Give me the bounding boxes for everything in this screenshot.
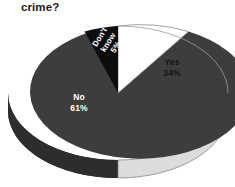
slice-label-yes-value: 34% [163,68,180,78]
pie-chart-figure: crime? Yes34% No61% Don'tknow5% [0,0,235,187]
slice-label-yes: Yes34% [151,57,193,78]
slice-label-no-name: No [73,92,85,102]
slice-label-no-value: 61% [70,103,87,113]
slice-label-no: No61% [58,92,100,113]
slice-label-yes-name: Yes [165,57,180,67]
